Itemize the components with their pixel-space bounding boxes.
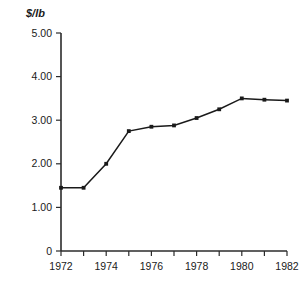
data-series-group	[59, 97, 289, 190]
y-axis-title: $/lb	[25, 7, 45, 19]
data-point	[172, 124, 176, 128]
data-point	[59, 186, 63, 190]
x-tick-label: 1982	[275, 260, 299, 272]
data-point	[240, 97, 244, 101]
data-point	[195, 116, 199, 120]
y-tick-label: 1.00	[32, 201, 53, 213]
data-point	[82, 186, 86, 190]
data-point	[127, 129, 131, 133]
line-chart: 01.002.003.004.005.00 197219741976197819…	[0, 0, 304, 291]
x-axis-group: 197219741976197819801982	[49, 251, 299, 272]
x-axis-tick-labels: 197219741976197819801982	[49, 260, 299, 272]
y-axis-tick-labels: 01.002.003.004.005.00	[32, 27, 53, 257]
y-tick-label: 2.00	[32, 157, 53, 169]
y-tick-label: 0	[46, 245, 52, 257]
x-tick-label: 1974	[95, 260, 119, 272]
y-tick-label: 5.00	[32, 27, 53, 39]
x-tick-label: 1972	[49, 260, 73, 272]
data-point	[285, 99, 289, 103]
x-tick-label: 1976	[140, 260, 164, 272]
data-point	[104, 162, 108, 166]
data-point	[263, 98, 267, 102]
y-tick-label: 3.00	[32, 114, 53, 126]
chart-canvas: 01.002.003.004.005.00 197219741976197819…	[0, 0, 304, 291]
y-tick-label: 4.00	[32, 70, 53, 82]
data-point	[217, 107, 221, 111]
series-markers	[59, 97, 289, 190]
x-tick-label: 1980	[230, 260, 254, 272]
data-point	[150, 125, 154, 129]
x-tick-label: 1978	[185, 260, 209, 272]
series-line	[61, 98, 287, 187]
y-axis-group: 01.002.003.004.005.00	[32, 27, 61, 257]
